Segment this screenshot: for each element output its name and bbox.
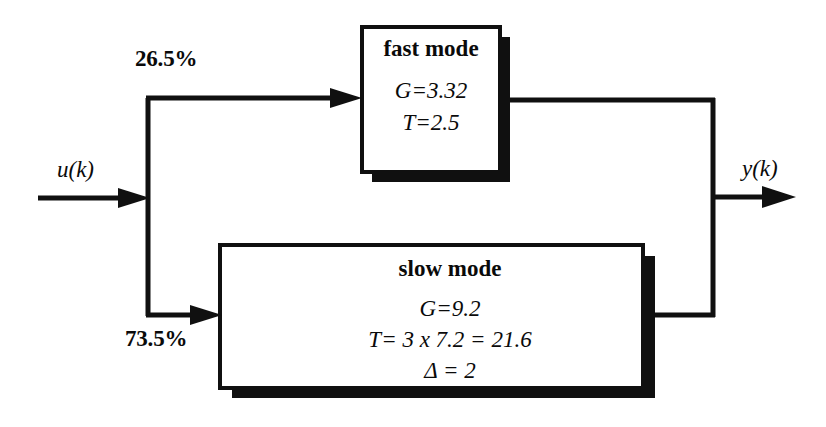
slow-branch-weight-label: 73.5% <box>125 327 187 350</box>
output-arrow <box>762 186 796 208</box>
slow-mode-line-gain: G=9.2 <box>280 296 620 322</box>
fast-mode-line-gain: G=3.32 <box>362 78 500 104</box>
input-arrow <box>118 188 150 208</box>
block-diagram: 26.5% 73.5% u(k) y(k) fast mode G=3.32 T… <box>0 0 826 427</box>
fast-branch-weight-label: 26.5% <box>135 47 197 70</box>
input-signal-label: u(k) <box>57 158 94 181</box>
fast-mode-title: fast mode <box>362 36 500 62</box>
slow-mode-title: slow mode <box>280 256 620 282</box>
slow-mode-line-time-constant: T= 3 x 7.2 = 21.6 <box>280 327 620 353</box>
fast-mode-block-text: fast mode G=3.32 T=2.5 <box>362 36 500 136</box>
slow-mode-line-delay: Δ = 2 <box>280 358 620 384</box>
slow-mode-block-text: slow mode G=9.2 T= 3 x 7.2 = 21.6 Δ = 2 <box>280 256 620 384</box>
fast-branch-arrow <box>330 88 362 108</box>
slow-branch-arrow <box>190 305 222 325</box>
output-signal-label: y(k) <box>742 157 778 180</box>
fast-mode-line-time-constant: T=2.5 <box>362 110 500 136</box>
